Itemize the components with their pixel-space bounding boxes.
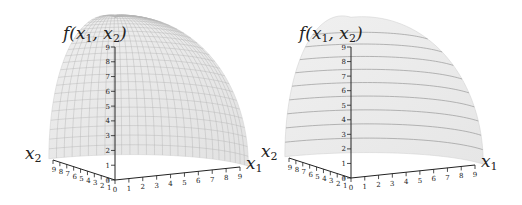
x1-axis <box>351 165 475 178</box>
contour-surface-plot: 00111222333444555666777888999f(x1, x2)x1… <box>261 16 498 192</box>
x2-axis-label: x2 <box>261 141 278 163</box>
x1-tick-label: 5 <box>182 179 186 187</box>
x1-tick-label: 5 <box>418 177 422 185</box>
z-tick-label: 9 <box>342 44 346 52</box>
z-tick-label: 2 <box>106 147 110 155</box>
z-tick-label: 3 <box>342 131 346 139</box>
z-tick-label: 7 <box>342 73 346 81</box>
wireframe-surface-plot: 00111222333444555666777888999f(x1, x2)x1… <box>25 15 263 194</box>
z-tick-label: 7 <box>106 73 110 81</box>
x2-tick-label: 7 <box>302 168 306 176</box>
surface-plots-figure: 00111222333444555666777888999f(x1, x2)x1… <box>0 0 522 205</box>
x1-tick-label: 6 <box>196 177 201 185</box>
x2-tick-label: 9 <box>288 164 292 172</box>
z-tick-label: 4 <box>106 117 111 125</box>
z-tick-label: 3 <box>106 132 110 140</box>
x2-tick-label: 5 <box>315 173 319 181</box>
z-tick-label: 8 <box>342 58 346 66</box>
x1-tick-label: 0 <box>349 184 353 192</box>
x2-axis-label: x2 <box>25 143 42 165</box>
x2-tick-label: 1 <box>343 182 347 190</box>
z-tick-label: 9 <box>106 44 110 52</box>
x2-tick-label: 8 <box>59 168 63 176</box>
x2-tick-label: 4 <box>322 175 327 183</box>
x2-tick-label: 2 <box>336 180 340 188</box>
x1-tick-label: 8 <box>459 172 463 180</box>
x1-tick-label: 3 <box>154 182 158 190</box>
z-tick-label: 5 <box>106 103 110 111</box>
x1-tick-label: 9 <box>473 171 477 179</box>
x1-axis-label: x1 <box>481 151 498 173</box>
x1-tick-label: 3 <box>390 180 394 188</box>
x2-tick-label: 6 <box>72 173 77 181</box>
x2-tick-label: 4 <box>86 177 91 185</box>
x1-tick-label: 0 <box>113 186 117 194</box>
x2-tick-label: 9 <box>52 166 56 174</box>
x1-tick-label: 9 <box>238 173 242 181</box>
x1-axis <box>115 167 240 180</box>
z-tick-label: 4 <box>342 116 347 124</box>
x2-tick-label: 2 <box>100 182 104 190</box>
z-tick-label: 5 <box>342 102 346 110</box>
x2-tick-label: 1 <box>107 184 111 192</box>
z-tick-label: 2 <box>342 145 346 153</box>
z-tick-label: 6 <box>342 87 347 95</box>
x1-tick-label: 7 <box>210 176 214 184</box>
x1-tick-label: 1 <box>363 183 367 191</box>
x2-tick-label: 7 <box>66 170 70 178</box>
x1-tick-label: 2 <box>376 181 380 189</box>
x1-tick-label: 4 <box>404 178 409 186</box>
z-tick-label: 1 <box>106 162 110 170</box>
z-tick-label: 8 <box>106 58 110 66</box>
x2-tick-label: 8 <box>295 166 299 174</box>
x1-tick-label: 8 <box>224 174 228 182</box>
x1-tick-label: 6 <box>431 175 436 183</box>
x1-tick-label: 2 <box>141 183 145 191</box>
x1-tick-label: 7 <box>445 174 449 182</box>
z-tick-label: 6 <box>106 88 111 96</box>
x2-tick-label: 6 <box>308 171 313 179</box>
x1-tick-label: 4 <box>168 180 173 188</box>
z-tick-label: 1 <box>342 160 346 168</box>
x2-tick-label: 3 <box>93 179 97 187</box>
x2-tick-label: 5 <box>79 175 83 183</box>
x1-tick-label: 1 <box>127 185 131 193</box>
x2-tick-label: 3 <box>329 177 333 185</box>
